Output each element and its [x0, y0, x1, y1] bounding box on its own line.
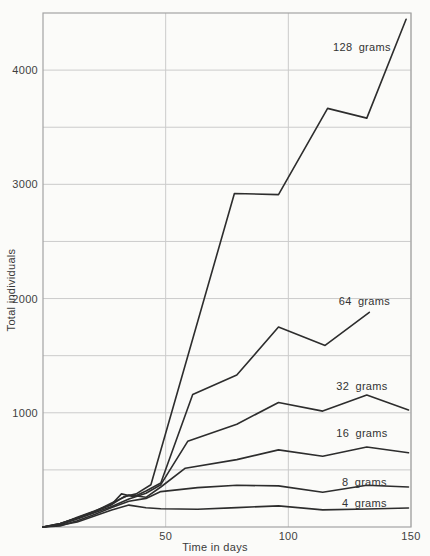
- series-label-4-grams: 4 grams: [342, 498, 387, 509]
- x-tick-label-150: 150: [393, 531, 429, 542]
- series-label-16-grams: 16 grams: [336, 428, 387, 439]
- series-label-8-grams: 8 grams: [342, 477, 387, 488]
- y-tick-label-1000: 1000: [0, 408, 38, 419]
- curve-64-grams: [43, 312, 369, 527]
- y-tick-label-2000: 2000: [0, 294, 38, 305]
- y-tick-label-3000: 3000: [0, 179, 38, 190]
- population-growth-chart: Total individuals Time in days 100020003…: [0, 0, 430, 556]
- y-axis-title: Total individuals: [5, 249, 17, 332]
- y-tick-label-4000: 4000: [0, 65, 38, 76]
- plot-area: [0, 0, 430, 556]
- series-label-32-grams: 32 grams: [336, 380, 387, 391]
- x-axis-title: Time in days: [30, 541, 400, 553]
- series-label-64-grams: 64 grams: [339, 295, 390, 306]
- x-tick-label-100: 100: [270, 531, 306, 542]
- series-label-128-grams: 128 grams: [333, 42, 391, 53]
- x-tick-label-50: 50: [148, 531, 184, 542]
